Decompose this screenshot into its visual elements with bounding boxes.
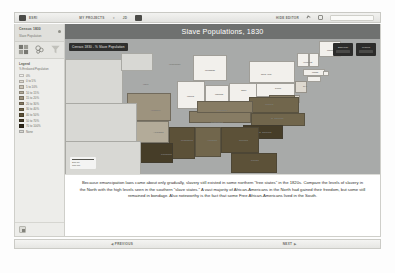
- map-region[interactable]: [193, 55, 227, 81]
- toolbar-right-group: HIDE EDITOR: [276, 15, 380, 21]
- previous-label: Previous: [115, 242, 133, 246]
- map-region-label: Indiana: [215, 93, 223, 96]
- map-region-label: Louisiana: [161, 153, 172, 156]
- map-region-label: Vermont: [303, 61, 312, 64]
- map-region-label: Kentucky: [217, 109, 227, 112]
- map-region-label: Mississippi: [181, 139, 193, 142]
- map-region-label: N. Carolina: [271, 117, 284, 120]
- map-region-label: S. Carolina: [259, 131, 271, 134]
- map-region-label: Missouri: [151, 109, 160, 112]
- map-banner: Slave Populations, 1830: [65, 24, 380, 39]
- map-region[interactable]: [323, 71, 329, 76]
- legend-list: 0%0 to 5%5 to 10%10 to 15%15 to 20%20 to…: [19, 73, 64, 135]
- map-region[interactable]: [297, 53, 309, 67]
- basemap-thumb: [336, 50, 350, 53]
- legend-title: Legend: [19, 62, 64, 66]
- next-button[interactable]: Next ▶: [283, 242, 296, 246]
- sidebar-header: Census 1830 Slave Population: [15, 24, 64, 42]
- map-region-label: N.J.: [303, 85, 307, 88]
- editor-frame: Census 1830 Slave Population: [14, 24, 381, 237]
- legend-item-label: 0 to 5%: [26, 79, 36, 83]
- legend-swatch: [19, 108, 24, 111]
- legend-item-label: 10 to 15%: [26, 91, 39, 95]
- legend-swatch: [19, 124, 24, 127]
- map-region-label: Tennessee: [211, 121, 223, 124]
- legend-swatch: [19, 80, 24, 83]
- map-region-label: Michigan: [205, 69, 215, 72]
- map-controls: Basemap Legend: [333, 43, 376, 56]
- chevron-down-icon[interactable]: ▾: [113, 16, 115, 20]
- brand-label: ESRI: [29, 16, 37, 20]
- legend-item-label: 0%: [26, 74, 30, 78]
- app-menu-icon[interactable]: [135, 15, 142, 21]
- legend-item-label: 70 to 100%: [26, 124, 41, 128]
- toolbar-brand-group: ESRI: [15, 15, 37, 21]
- map-region-label: Georgia: [239, 139, 248, 142]
- legend-item[interactable]: None: [19, 129, 64, 135]
- brand-logo-icon: [19, 15, 26, 21]
- legend-swatch: [19, 102, 24, 105]
- legend-item-label: 50 to 70%: [26, 119, 39, 123]
- basemap-button[interactable]: Basemap: [333, 43, 353, 56]
- map-region-unclassified: [65, 103, 137, 143]
- left-arrow-icon: ◀: [111, 242, 113, 246]
- account-initials[interactable]: JD: [123, 16, 128, 20]
- map-region-label: Virginia: [265, 103, 273, 106]
- map-region[interactable]: [249, 97, 299, 113]
- map-region[interactable]: [231, 153, 277, 173]
- map-region[interactable]: [195, 127, 221, 157]
- map-region[interactable]: [309, 53, 319, 67]
- basemap-label: Basemap: [338, 46, 348, 49]
- top-toolbar: ESRI MY PROJECTS ▾ JD HIDE EDITOR: [14, 12, 381, 23]
- filter-icon[interactable]: [50, 44, 61, 55]
- legend-swatch: [19, 113, 24, 116]
- my-projects-button[interactable]: MY PROJECTS: [79, 16, 104, 20]
- previous-button[interactable]: ◀ Previous: [111, 242, 133, 246]
- layers-icon[interactable]: [18, 44, 29, 55]
- legend-thumb: [359, 50, 373, 53]
- scale-kilometers: 300 km: [72, 164, 94, 167]
- map-region[interactable]: [307, 76, 321, 82]
- legend-item-label: 30 to 40%: [26, 107, 39, 111]
- map-region[interactable]: [249, 61, 295, 83]
- toolbar-center-group: MY PROJECTS ▾ JD: [79, 15, 142, 21]
- legend-swatch: [19, 74, 24, 77]
- map-layer-chip[interactable]: Census 1830 - % Slave Population: [69, 43, 128, 51]
- map-region-label: Wisconsin: [169, 63, 180, 66]
- map-region[interactable]: [135, 121, 169, 143]
- legend-swatch: [19, 91, 24, 94]
- right-arrow-icon: ▶: [294, 242, 296, 246]
- legend-button[interactable]: Legend: [356, 43, 376, 56]
- legend-item-label: 20 to 30%: [26, 102, 39, 106]
- caption-text: Because emancipation laws came about onl…: [79, 180, 366, 200]
- map-title: Slave Populations, 1830: [181, 27, 263, 36]
- scale-bar: 200 mi 300 km: [70, 157, 96, 169]
- map-region-label: New York: [261, 73, 272, 76]
- map-region-label: Florida: [251, 159, 259, 162]
- map-chip-label: Census 1830 - % Slave Population: [72, 45, 125, 49]
- content-column: Slave Populations, 1830 MaineVermontNew …: [65, 24, 380, 236]
- scale-line: [72, 159, 94, 161]
- sidebar-toolbar: [15, 42, 64, 59]
- bottom-navigation: ◀ Previous Next ▶: [14, 239, 381, 249]
- map-region-label: Iowa: [143, 83, 148, 86]
- legend-swatch: [19, 96, 24, 99]
- map-stage[interactable]: MaineVermontNew YorkMass.MichiganWiscons…: [65, 39, 380, 174]
- legend-item-label: 15 to 20%: [26, 96, 39, 100]
- legend-subtitle: % Enslaved Population: [19, 67, 64, 71]
- options-dot-icon[interactable]: [58, 30, 61, 33]
- hide-editor-button[interactable]: HIDE EDITOR: [276, 16, 299, 20]
- fullscreen-icon[interactable]: [318, 15, 323, 20]
- sidebar: Census 1830 Slave Population: [15, 24, 65, 236]
- map-region-unclassified: [121, 53, 153, 71]
- toolbar-field[interactable]: [330, 15, 374, 21]
- legend-swatch: [19, 85, 24, 88]
- add-layer-button[interactable]: [19, 226, 26, 233]
- map-region-label: Mass.: [312, 71, 319, 74]
- share-icon[interactable]: [306, 15, 311, 20]
- application-window: ESRI MY PROJECTS ▾ JD HIDE EDITOR Census…: [0, 0, 395, 273]
- symbology-icon[interactable]: [34, 44, 45, 55]
- caption-panel: Because emancipation laws came about onl…: [65, 174, 380, 236]
- sidebar-title: Census 1830: [19, 27, 61, 31]
- sidebar-footer: [15, 222, 64, 236]
